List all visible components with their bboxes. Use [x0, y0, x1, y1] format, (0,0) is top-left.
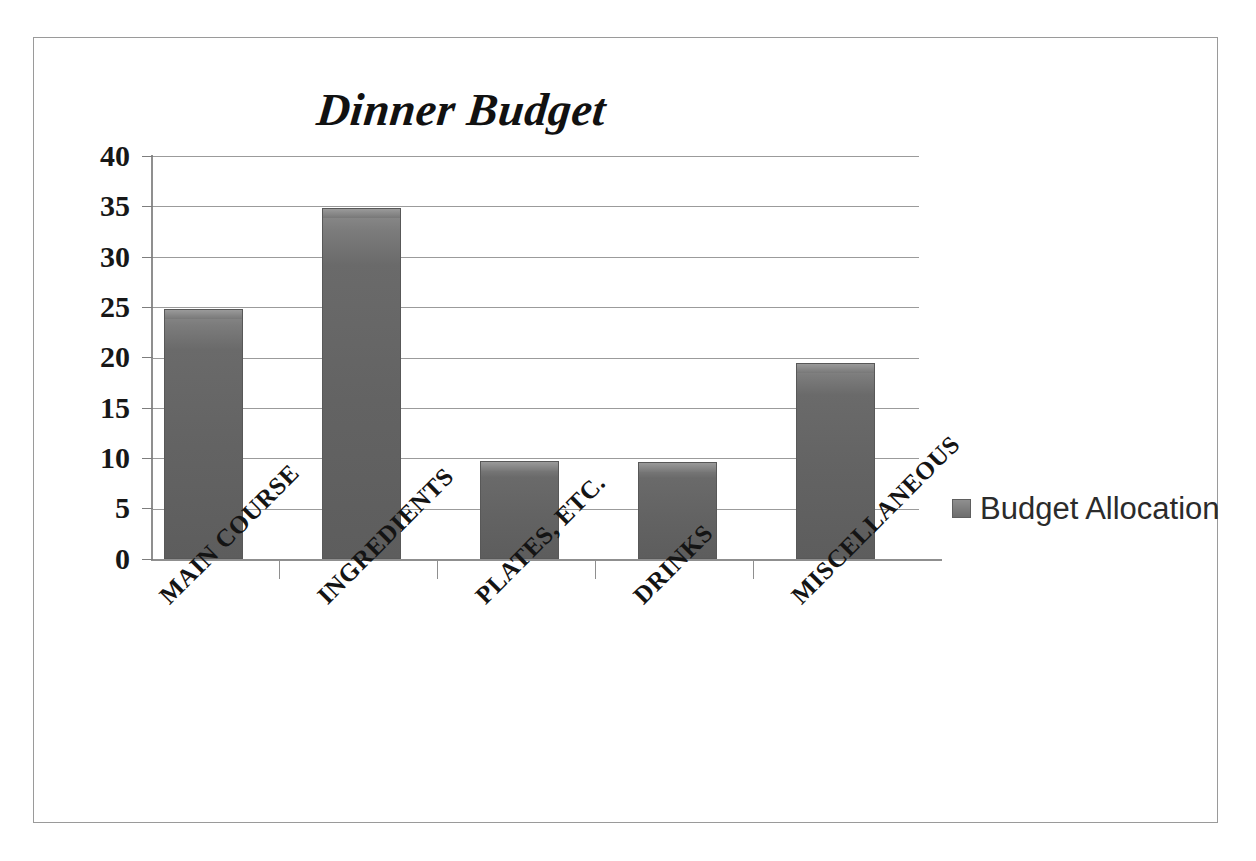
value-tick-0 — [142, 559, 153, 560]
value-axis-label-20: 20 — [42, 342, 130, 372]
value-tick-30 — [142, 257, 153, 258]
value-tick-35 — [142, 206, 153, 207]
value-axis-label-10: 10 — [42, 443, 130, 473]
chart-legend[interactable]: Budget Allocation — [952, 493, 1220, 524]
value-tick-20 — [142, 357, 153, 358]
category-tick-4 — [753, 559, 754, 579]
category-tick-3 — [595, 559, 596, 579]
chart-frame: Dinner Budget 40 35 30 25 20 15 10 5 0 M… — [33, 37, 1218, 823]
category-tick-1 — [279, 559, 280, 579]
category-tick-2 — [437, 559, 438, 579]
value-axis-label-25: 25 — [42, 292, 130, 322]
value-tick-5 — [142, 508, 153, 509]
value-axis-label-35: 35 — [42, 191, 130, 221]
value-axis-label-30: 30 — [42, 242, 130, 272]
value-tick-15 — [142, 408, 153, 409]
value-tick-10 — [142, 458, 153, 459]
value-tick-40 — [142, 156, 153, 157]
value-axis-label-15: 15 — [42, 393, 130, 423]
value-axis-label-5: 5 — [42, 493, 130, 523]
gridline-25 — [151, 307, 919, 308]
chart-title: Dinner Budget — [31, 83, 892, 136]
legend-series-label: Budget Allocation — [980, 493, 1220, 524]
gridline-35 — [151, 206, 919, 207]
gridline-20 — [151, 358, 919, 359]
value-axis-label-0: 0 — [42, 544, 130, 574]
value-tick-25 — [142, 307, 153, 308]
gridline-30 — [151, 257, 919, 258]
bar-ingredients[interactable] — [322, 208, 401, 559]
value-axis-label-40: 40 — [42, 141, 130, 171]
gridline-40 — [151, 156, 919, 157]
legend-color-swatch-icon — [952, 499, 971, 518]
